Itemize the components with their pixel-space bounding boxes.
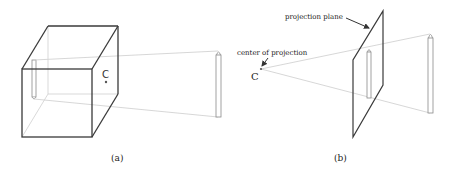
cube-visible-edges [22,26,118,137]
projection-plane-annotation: projection plane [285,13,343,21]
projected-candle-icon [367,50,371,99]
caption-b: (b) [334,153,347,163]
real-candle-icon-b [428,35,433,114]
figure-b: C center of projection projection plane … [237,11,433,163]
center-of-projection-point [260,68,262,70]
figure-a: C (a) [22,26,221,163]
plane-arrow-icon [346,18,369,28]
center-arrow-icon [262,58,268,66]
real-candle-icon-a [216,52,221,117]
center-of-projection-annotation: center of projection [237,49,308,57]
caption-a: (a) [111,153,123,163]
pinhole-projection-diagram: C (a) C center of projection [0,0,453,178]
pinhole-point [105,81,107,83]
center-label-b: C [251,71,259,82]
cube-hidden-edges [22,26,118,137]
center-label-a: C [102,69,109,80]
inverted-candle-icon [32,60,36,99]
projection-rays-a [34,51,218,117]
projection-rays-b [261,34,430,113]
